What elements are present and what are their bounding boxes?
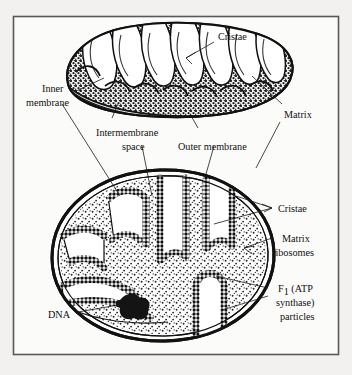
mitochondrion-cross-section — [52, 170, 274, 341]
label-f1-particles: F1 (ATP synthase) particles — [276, 283, 315, 322]
label-intermembrane-line2: space — [122, 141, 145, 152]
label-inner-membrane-line1: Inner — [42, 83, 64, 94]
label-f1-rest: (ATP — [289, 283, 313, 295]
label-f1-line3: particles — [280, 311, 315, 322]
label-cristae-bottom: Cristae — [278, 203, 307, 214]
label-cristae-top: Cristae — [218, 31, 247, 42]
label-f1-line2: synthase) — [276, 297, 314, 309]
label-inner-membrane-line2: membrane — [26, 97, 69, 108]
figure-canvas: Cristae Inner membrane Intermembrane spa… — [0, 0, 352, 375]
label-matrix-ribosomes-line2: ribosomes — [272, 247, 314, 258]
mitochondrion-3d-view — [67, 21, 293, 120]
mitochondrion-figure: Cristae Inner membrane Intermembrane spa… — [0, 0, 352, 375]
label-outer-membrane: Outer membrane — [178, 141, 247, 152]
label-dna: DNA — [48, 309, 71, 320]
label-matrix: Matrix — [284, 109, 312, 120]
label-intermembrane-line1: Intermembrane — [96, 127, 159, 138]
label-matrix-ribosomes-line1: Matrix — [282, 233, 310, 244]
